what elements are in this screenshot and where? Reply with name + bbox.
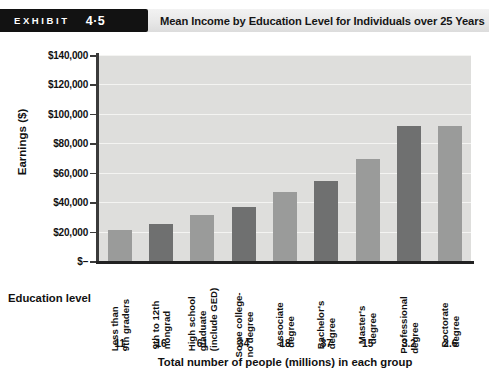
- population-number: 16: [140, 338, 181, 349]
- population-numbers-row: 111661341837153.22.6: [99, 338, 471, 354]
- education-level-label: Education level: [8, 292, 91, 304]
- bar: [273, 192, 297, 261]
- x-axis-category-label: Associatedegree: [264, 264, 305, 336]
- x-axis-category-label: Some college-no degree: [223, 264, 264, 336]
- x-axis-category-label: Less than9th graders: [99, 264, 140, 336]
- x-axis-category-label: 9th to 12thnongrad: [140, 264, 181, 336]
- population-number: 15: [347, 338, 388, 349]
- x-axis-category-label: High schoolgraduate(include GED): [182, 264, 223, 336]
- y-axis-tick: [90, 202, 96, 204]
- gridline: [99, 84, 471, 85]
- y-axis-tick-label: $60,000: [2, 167, 88, 178]
- exhibit-badge-word: EXHIBIT: [14, 15, 70, 26]
- y-axis-tick: [90, 114, 96, 116]
- y-axis-tick: [90, 55, 96, 57]
- y-axis-tick: [90, 232, 96, 234]
- x-axis-category-label: Bachelor'sdegree: [306, 264, 347, 336]
- x-axis-category-label: Professionaldegree: [388, 264, 429, 336]
- bar: [314, 181, 338, 261]
- exhibit-badge: EXHIBIT 4·5: [0, 9, 148, 32]
- x-axis-category-label: Doctoratedegree: [430, 264, 471, 336]
- y-axis-tick-label: $100,000: [2, 108, 88, 119]
- population-number: 2.6: [430, 338, 471, 349]
- bar: [149, 224, 173, 261]
- y-axis-tick: [90, 143, 96, 145]
- population-number: 11: [99, 338, 140, 349]
- population-caption: Total number of people (millions) in eac…: [99, 356, 471, 368]
- y-axis-tick-label: $80,000: [2, 138, 88, 149]
- population-number: 61: [182, 338, 223, 349]
- y-axis-tick-label: $20,000: [2, 226, 88, 237]
- bar: [108, 230, 132, 261]
- y-axis-tick-label: $140,000: [2, 50, 88, 61]
- y-axis-tick: [90, 173, 96, 175]
- y-axis-tick-label: $40,000: [2, 197, 88, 208]
- y-axis-tick: [90, 261, 96, 263]
- exhibit-header: EXHIBIT 4·5 Mean Income by Education Lev…: [0, 9, 489, 32]
- population-number: 18: [264, 338, 305, 349]
- chart-figure: Earnings ($) $–$20,000$40,000$60,000$80,…: [0, 40, 489, 379]
- x-axis-category-labels: Less than9th graders9th to 12thnongradHi…: [99, 264, 471, 336]
- gridline: [99, 114, 471, 115]
- gridline: [99, 55, 471, 56]
- bar: [232, 207, 256, 261]
- y-axis-tick-label: $–: [2, 256, 88, 267]
- bar: [190, 215, 214, 261]
- x-axis-category-label: Master'sdegree: [347, 264, 388, 336]
- bar: [397, 126, 421, 261]
- y-axis-labels: $–$20,000$40,000$60,000$80,000$100,000$1…: [0, 40, 88, 280]
- y-axis-tick-label: $120,000: [2, 79, 88, 90]
- exhibit-title: Mean Income by Education Level for Indiv…: [160, 9, 485, 32]
- plot-area: [99, 55, 471, 261]
- exhibit-badge-number: 4·5: [86, 14, 106, 28]
- population-number: 3.2: [388, 338, 429, 349]
- population-number: 34: [223, 338, 264, 349]
- bar: [356, 159, 380, 261]
- y-axis-line: [96, 53, 99, 263]
- bar: [438, 126, 462, 261]
- y-axis-tick: [90, 84, 96, 86]
- population-number: 37: [306, 338, 347, 349]
